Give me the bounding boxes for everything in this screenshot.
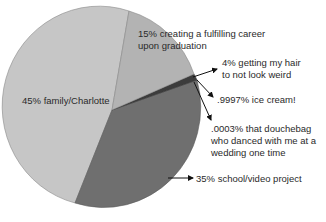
label-school: 35% school/video project: [196, 173, 302, 184]
arrow-hair: [193, 69, 217, 77]
label-icecream: .9997% ice cream!: [217, 94, 296, 105]
label-douche-3: wedding one time: [211, 147, 285, 158]
label-career-2: upon graduation: [138, 40, 207, 51]
label-hair-2: to not look weird: [222, 69, 291, 80]
label-family: 45% family/Charlotte: [22, 95, 110, 106]
label-career-1: 15% creating a fulfilling career: [138, 28, 265, 39]
label-douche-1: .0003% that douchebag: [211, 123, 311, 134]
label-douche-2: who danced with me at a: [211, 135, 316, 146]
label-hair-1: 4% getting my hair: [222, 57, 301, 68]
